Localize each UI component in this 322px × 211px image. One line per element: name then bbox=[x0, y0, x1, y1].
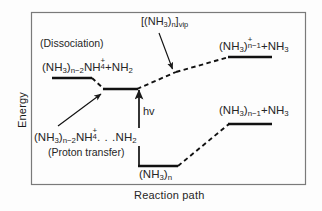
label-cation-fragment: (NH3)+n−1+NH3 bbox=[219, 38, 289, 54]
mr-s3: 3 bbox=[284, 109, 288, 118]
ml-s3: 4 bbox=[93, 134, 98, 141]
annotation-dissociation: (Dissociation) bbox=[40, 38, 104, 49]
ml-charge-4-plus: +4 bbox=[93, 128, 98, 141]
tr-charge-plus-n-1: +n−1 bbox=[248, 37, 261, 50]
connector-neutral-ascent bbox=[178, 124, 229, 166]
vip-text-open: [(NH bbox=[141, 15, 164, 27]
mr-p1: (NH bbox=[219, 104, 239, 116]
ul-charge-4-plus: +4 bbox=[101, 58, 106, 71]
x-axis-label: Reaction path bbox=[134, 190, 204, 202]
connector-cation-ascent bbox=[176, 57, 229, 72]
energy-diagram-figure: Energy Reaction path (Dissociation) [(NH… bbox=[0, 0, 322, 211]
proton-transfer-pointer-arrow bbox=[58, 94, 101, 126]
label-dissociation-products: (NH3)n−2NH+4+NH2 bbox=[42, 59, 133, 75]
ml-s4: 2 bbox=[132, 136, 136, 145]
vip-pointer-arrow bbox=[159, 33, 173, 69]
connector-vertical-ionization bbox=[137, 72, 176, 89]
label-ground-state-cluster: (NH3)n bbox=[139, 168, 172, 182]
ml-ellipsis: . . . bbox=[97, 131, 115, 143]
ul-s3: 4 bbox=[101, 64, 106, 71]
tr-p3: +NH bbox=[261, 40, 284, 52]
mr-s2: n−1 bbox=[248, 109, 261, 118]
bt-s2: n bbox=[168, 173, 172, 182]
ul-p3: NH bbox=[84, 61, 101, 73]
vip-sub-vip: vip bbox=[179, 20, 189, 29]
ml-p3: NH bbox=[76, 131, 93, 143]
label-vertical-ionization-potential: [(NH3)n]vip bbox=[141, 16, 188, 29]
annotation-proton-transfer: (Proton transfer) bbox=[48, 147, 124, 158]
connector-dissociation-descent bbox=[92, 78, 104, 89]
ml-p4: NH bbox=[116, 131, 133, 143]
mr-p3: +NH bbox=[261, 104, 284, 116]
tr-p1: (NH bbox=[219, 40, 239, 52]
y-axis-label: Energy bbox=[16, 92, 28, 128]
ul-s4: 2 bbox=[128, 66, 132, 75]
ul-p1: (NH bbox=[42, 61, 62, 73]
bt-p1: (NH bbox=[139, 168, 159, 180]
label-hv-photon: hv bbox=[143, 106, 155, 118]
label-neutral-fragment: (NH3)n−1+NH3 bbox=[219, 104, 289, 118]
ml-p1: (NH bbox=[34, 131, 54, 143]
tr-s2: n−1 bbox=[248, 43, 261, 50]
ul-s2: n−2 bbox=[71, 66, 84, 75]
ml-s2: n−2 bbox=[63, 136, 76, 145]
tr-s3: 3 bbox=[284, 45, 288, 54]
label-proton-transfer-complex: (NH3)n−2NH+4. . .NH2 bbox=[34, 129, 137, 145]
ul-p4: +NH bbox=[105, 61, 128, 73]
